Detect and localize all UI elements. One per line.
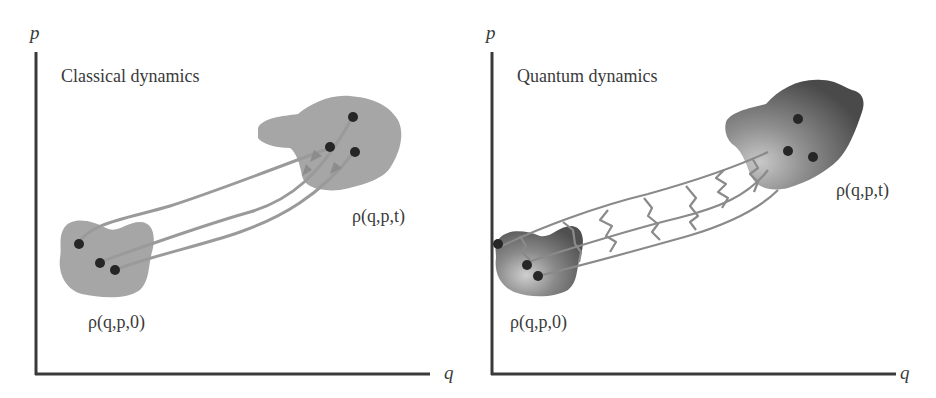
final-density-label: ρ(q,p,t) [836, 180, 889, 201]
q-axis-label: q [444, 362, 454, 384]
q-axis-label: q [900, 362, 910, 384]
wavy-link [716, 170, 728, 208]
p-axis-label: p [30, 22, 40, 44]
point [110, 265, 120, 275]
final-distribution-blob [725, 80, 863, 190]
quantum-trajectory-tube [498, 152, 778, 276]
point [350, 147, 360, 157]
initial-density-label: ρ(q,p,0) [510, 312, 567, 333]
classical-diagram [0, 0, 468, 398]
point [95, 258, 105, 268]
point [808, 152, 818, 162]
point [74, 239, 84, 249]
p-axis-label: p [486, 22, 496, 44]
point [325, 142, 335, 152]
panel-title: Classical dynamics [61, 66, 199, 87]
point [522, 260, 532, 270]
point [793, 114, 803, 124]
point [533, 271, 543, 281]
point [783, 146, 793, 156]
point [348, 112, 358, 122]
classical-dynamics-panel: p q Classical dynamics ρ(q,p,0) ρ(q,p,t) [0, 0, 468, 398]
wavy-link [600, 210, 616, 252]
quantum-dynamics-panel: p q Quantum dynamics ρ(q,p,0) ρ(q,p,t) [468, 0, 936, 398]
wavy-link [686, 186, 698, 230]
panel-title: Quantum dynamics [517, 66, 657, 87]
wavy-link [644, 198, 660, 240]
initial-distribution-blob [496, 226, 583, 296]
final-density-label: ρ(q,p,t) [352, 206, 405, 227]
initial-density-label: ρ(q,p,0) [88, 312, 145, 333]
point [493, 239, 503, 249]
